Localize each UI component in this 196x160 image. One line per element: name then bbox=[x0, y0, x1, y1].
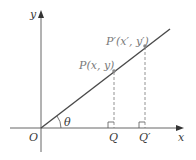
point-p-prime-label: P′(x′, y′) bbox=[105, 35, 149, 48]
right-angle-marker-q-prime bbox=[139, 122, 145, 128]
right-angle-marker-q bbox=[108, 122, 114, 128]
foot-q-label: Q bbox=[109, 131, 118, 144]
foot-q-prime-label: Q′ bbox=[139, 131, 151, 144]
diagram-canvas: y x O θ P(x, y) P′(x′, y′) Q Q′ bbox=[0, 0, 196, 160]
angle-arc bbox=[57, 116, 61, 128]
y-axis-label: y bbox=[29, 8, 37, 21]
y-axis-arrow-icon bbox=[38, 10, 44, 18]
point-p-label: P(x, y) bbox=[78, 59, 114, 72]
origin-label: O bbox=[29, 131, 38, 144]
angle-label: θ bbox=[64, 116, 71, 129]
x-axis-label: x bbox=[178, 131, 185, 144]
